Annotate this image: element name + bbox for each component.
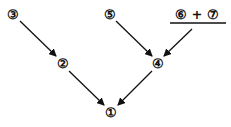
node-2: ② <box>57 57 69 70</box>
edge-5-to-4 <box>116 21 152 56</box>
node-5: ⑤ <box>104 8 116 21</box>
edge-4-to-1 <box>118 71 152 105</box>
edge-67-to-4 <box>164 29 192 56</box>
node-6-plus-7: ⑥ + ⑦ <box>175 8 219 21</box>
node-3: ③ <box>7 8 19 21</box>
node-1: ① <box>105 106 117 119</box>
node-4: ④ <box>152 57 164 70</box>
edge-2-to-1 <box>69 71 104 105</box>
edge-3-to-2 <box>20 21 56 56</box>
